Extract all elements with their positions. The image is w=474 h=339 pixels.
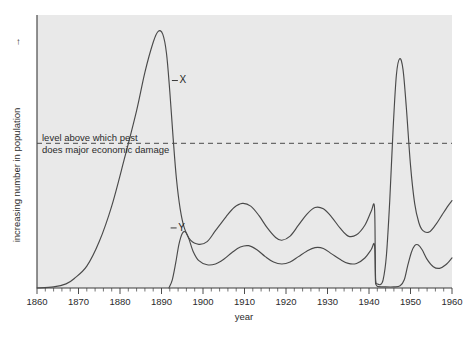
figure-container: X Y level above which pest does major ec…	[0, 0, 474, 339]
x-tick-label: 1910	[234, 296, 255, 307]
x-axis-tick-labels: 1860187018801890190019101920193019401950…	[26, 296, 462, 307]
x-tick-label: 1870	[68, 296, 89, 307]
population-cycles-chart: X Y level above which pest does major ec…	[0, 0, 474, 339]
threshold-annotation-line2: does major economic damage	[42, 144, 169, 155]
x-tick-label: 1860	[26, 296, 47, 307]
x-tick-label: 1890	[151, 296, 172, 307]
y-axis-arrow-icon: →	[11, 37, 22, 47]
x-tick-label: 1930	[317, 296, 338, 307]
x-tick-label: 1920	[275, 296, 296, 307]
x-tick-label: 1880	[109, 296, 130, 307]
x-tick-label: 1940	[358, 296, 379, 307]
series-label-x: X	[179, 74, 186, 85]
x-tick-label: 1950	[400, 296, 421, 307]
threshold-annotation-line1: level above which pest	[42, 132, 138, 143]
x-axis-major-ticks	[37, 288, 452, 294]
x-tick-label: 1900	[192, 296, 213, 307]
x-tick-label: 1960	[441, 296, 462, 307]
series-label-y: Y	[178, 222, 185, 233]
y-axis-title: increasing number in population	[11, 108, 22, 243]
x-axis-title: year	[235, 311, 253, 322]
